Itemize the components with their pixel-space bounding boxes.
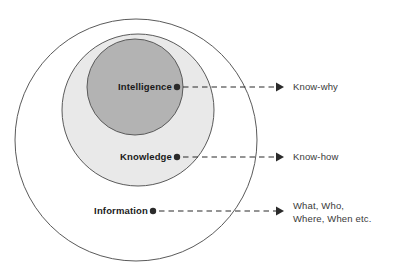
outcome-label-know-how: Know-how [293, 151, 339, 162]
outcome-label-what-who-line1: What, Who, [293, 200, 344, 211]
dikw-diagram: Intelligence Know-why Knowledge Know-how… [0, 0, 402, 279]
diagram-canvas: Intelligence Know-why Knowledge Know-how… [0, 0, 402, 279]
ring-label-intelligence: Intelligence [118, 81, 172, 92]
arrowhead-information [276, 207, 284, 216]
connector-dot-knowledge [174, 154, 180, 160]
connector-dot-intelligence [174, 84, 180, 90]
connector-dot-information [150, 208, 156, 214]
ring-group [15, 19, 257, 261]
arrowhead-knowledge [276, 153, 284, 162]
outcome-label-what-who-line2: Where, When etc. [293, 213, 371, 224]
ring-label-knowledge: Knowledge [120, 151, 172, 162]
arrowhead-intelligence [276, 83, 284, 92]
outcome-label-know-why: Know-why [293, 81, 338, 92]
ring-label-information: Information [94, 205, 148, 216]
